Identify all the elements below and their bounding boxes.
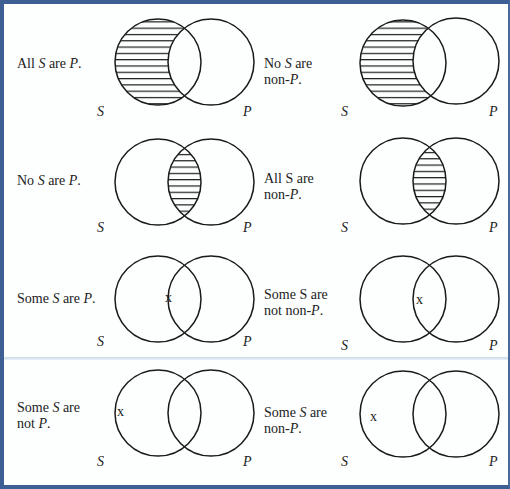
venn-diagram — [100, 135, 250, 230]
s-label: S — [97, 104, 104, 120]
p-label: P — [489, 220, 498, 236]
p-label: P — [243, 454, 252, 470]
proposition-label: No S arenon-P. — [264, 56, 312, 88]
s-circle — [115, 370, 201, 456]
x-mark: x — [370, 409, 377, 425]
venn-diagram — [100, 252, 250, 347]
s-label: S — [341, 104, 348, 120]
s-circle — [115, 256, 201, 342]
p-circle — [168, 370, 254, 456]
p-circle — [168, 256, 254, 342]
s-circle — [360, 256, 446, 342]
hatched-region — [345, 15, 495, 110]
row-separator — [4, 357, 508, 360]
p-label: P — [243, 334, 252, 350]
venn-diagram — [100, 15, 250, 110]
venn-diagram — [345, 133, 495, 228]
x-mark: x — [416, 292, 423, 308]
s-label: S — [341, 220, 348, 236]
p-label: P — [489, 454, 498, 470]
venn-diagram — [345, 366, 495, 461]
venn-diagram — [345, 15, 495, 110]
proposition-label: No S are P. — [17, 173, 81, 189]
s-label: S — [97, 454, 104, 470]
hatched-region — [345, 133, 495, 228]
s-label: S — [97, 220, 104, 236]
p-label: P — [489, 338, 498, 354]
p-label: P — [489, 104, 498, 120]
p-label: P — [243, 220, 252, 236]
proposition-label: Some S arenot non-P. — [264, 287, 328, 319]
p-label: P — [243, 104, 252, 120]
s-label: S — [97, 334, 104, 350]
proposition-label: Some S are P. — [17, 291, 96, 307]
p-circle — [413, 256, 499, 342]
p-circle — [413, 371, 499, 457]
proposition-label: Some S arenon-P. — [264, 405, 327, 437]
hatched-region — [100, 135, 250, 230]
x-mark: x — [165, 290, 172, 306]
x-mark: x — [117, 404, 124, 420]
proposition-label: All S are P. — [17, 56, 82, 72]
proposition-label: Some S arenot P. — [17, 400, 80, 432]
proposition-label: All S arenon-P. — [264, 171, 314, 203]
s-label: S — [341, 454, 348, 470]
s-label: S — [341, 338, 348, 354]
hatched-region — [100, 15, 250, 110]
